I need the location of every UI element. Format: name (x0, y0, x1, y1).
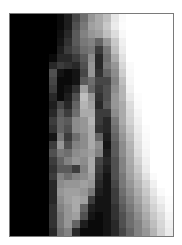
mosaic-pixel (57, 149, 65, 157)
mosaic-pixel (165, 117, 173, 125)
mosaic-pixel (88, 220, 96, 228)
mosaic-pixel (88, 22, 96, 30)
mosaic-pixel (142, 54, 150, 62)
mosaic-pixel (18, 212, 26, 220)
mosaic-pixel (165, 204, 173, 212)
mosaic-pixel (150, 149, 158, 157)
mosaic-pixel (18, 133, 26, 141)
mosaic-pixel (26, 212, 34, 220)
mosaic-pixel (33, 101, 41, 109)
mosaic-pixel (95, 46, 103, 54)
mosaic-pixel (134, 173, 142, 181)
mosaic-pixel (88, 46, 96, 54)
mosaic-pixel (119, 85, 127, 93)
mosaic-pixel (150, 173, 158, 181)
mosaic-pixel (33, 173, 41, 181)
mosaic-pixel (111, 46, 119, 54)
mosaic-pixel (88, 165, 96, 173)
mosaic-pixel (157, 109, 165, 117)
mosaic-pixel (18, 157, 26, 165)
mosaic-pixel (64, 38, 72, 46)
mosaic-pixel (26, 77, 34, 85)
mosaic-pixel (80, 125, 88, 133)
mosaic-pixel (41, 85, 49, 93)
mosaic-pixel (95, 173, 103, 181)
mosaic-pixel (142, 228, 150, 236)
mosaic-pixel (95, 196, 103, 204)
mosaic-pixel (150, 228, 158, 236)
mosaic-pixel (49, 54, 57, 62)
mosaic-pixel (88, 228, 96, 236)
mosaic-pixel (72, 125, 80, 133)
mosaic-pixel (64, 69, 72, 77)
mosaic-pixel (64, 228, 72, 236)
mosaic-pixel (88, 38, 96, 46)
mosaic-pixel (10, 93, 18, 101)
mosaic-pixel (80, 22, 88, 30)
mosaic-pixel (33, 14, 41, 22)
mosaic-pixel (33, 85, 41, 93)
mosaic-pixel (111, 133, 119, 141)
mosaic-pixel (26, 133, 34, 141)
mosaic-pixel (49, 30, 57, 38)
mosaic-pixel (10, 101, 18, 109)
mosaic-pixel (103, 85, 111, 93)
mosaic-pixel (26, 173, 34, 181)
mosaic-pixel (157, 117, 165, 125)
mosaic-pixel (150, 93, 158, 101)
mosaic-pixel (142, 188, 150, 196)
mosaic-pixel (142, 133, 150, 141)
mosaic-pixel (111, 125, 119, 133)
mosaic-pixel (157, 188, 165, 196)
mosaic-pixel (33, 54, 41, 62)
mosaic-pixel (95, 204, 103, 212)
mosaic-pixel (134, 54, 142, 62)
mosaic-pixel (33, 46, 41, 54)
mosaic-pixel (49, 93, 57, 101)
mosaic-pixel (26, 109, 34, 117)
mosaic-pixel (134, 125, 142, 133)
mosaic-pixel (165, 133, 173, 141)
mosaic-pixel (150, 30, 158, 38)
mosaic-pixel (95, 22, 103, 30)
mosaic-pixel (80, 85, 88, 93)
mosaic-pixel (103, 14, 111, 22)
mosaic-pixel (26, 188, 34, 196)
mosaic-pixel (33, 133, 41, 141)
mosaic-pixel (119, 93, 127, 101)
mosaic-pixel (33, 220, 41, 228)
mosaic-pixel (49, 117, 57, 125)
mosaic-pixel (165, 101, 173, 109)
mosaic-pixel (126, 46, 134, 54)
mosaic-pixel (103, 125, 111, 133)
mosaic-pixel (80, 109, 88, 117)
mosaic-pixel (80, 38, 88, 46)
mosaic-pixel (134, 101, 142, 109)
mosaic-pixel (157, 165, 165, 173)
mosaic-pixel (49, 165, 57, 173)
mosaic-pixel (57, 133, 65, 141)
mosaic-pixel (134, 77, 142, 85)
mosaic-pixel (134, 38, 142, 46)
mosaic-pixel (165, 125, 173, 133)
mosaic-pixel (10, 69, 18, 77)
mosaic-pixel (33, 109, 41, 117)
mosaic-pixel (88, 212, 96, 220)
mosaic-pixel (80, 46, 88, 54)
mosaic-pixel (142, 157, 150, 165)
mosaic-pixel (157, 157, 165, 165)
mosaic-pixel (41, 22, 49, 30)
mosaic-pixel (26, 165, 34, 173)
mosaic-pixel (72, 180, 80, 188)
mosaic-pixel (26, 149, 34, 157)
mosaic-pixel (49, 38, 57, 46)
mosaic-pixel (142, 46, 150, 54)
mosaic-pixel (10, 62, 18, 70)
mosaic-pixel (41, 133, 49, 141)
mosaic-pixel (126, 188, 134, 196)
mosaic-pixel (157, 54, 165, 62)
mosaic-pixel (33, 141, 41, 149)
mosaic-pixel (10, 46, 18, 54)
mosaic-pixel (111, 180, 119, 188)
mosaic-pixel (88, 141, 96, 149)
